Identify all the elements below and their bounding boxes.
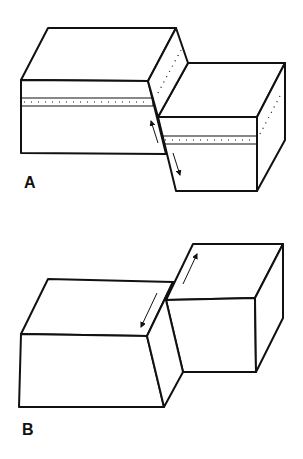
panel-label-a: A xyxy=(24,174,36,192)
a-left-block-front xyxy=(21,80,166,154)
fault-diagram xyxy=(0,0,303,459)
panel-b-diagram xyxy=(19,244,283,407)
b-left-block-front xyxy=(19,334,164,407)
panel-label-b: B xyxy=(22,421,34,439)
panel-a-diagram xyxy=(21,28,285,191)
